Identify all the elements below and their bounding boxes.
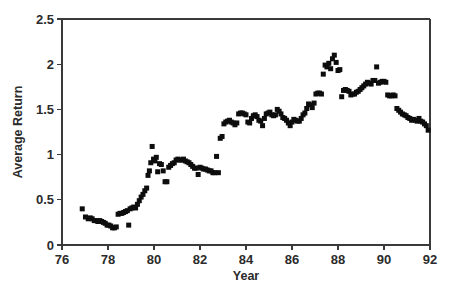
data-point	[214, 154, 219, 159]
data-point	[161, 168, 166, 173]
y-tick-label: 2	[47, 57, 54, 72]
x-tick-label: 82	[193, 252, 207, 267]
x-tick-label: 80	[147, 252, 161, 267]
average-return-scatter-chart: 00.511.522.5 767880828486889092 Year Ave…	[0, 0, 457, 292]
data-point	[126, 223, 131, 228]
data-point	[147, 168, 152, 173]
data-point	[312, 101, 317, 106]
data-point	[146, 173, 151, 178]
data-point	[150, 144, 155, 149]
data-point	[234, 120, 239, 125]
data-point	[80, 206, 85, 211]
data-point	[159, 162, 164, 167]
data-point	[302, 111, 307, 116]
data-point	[247, 120, 252, 125]
data-point	[339, 94, 344, 99]
y-tick-label: 0	[47, 238, 54, 253]
x-tick-label: 92	[423, 252, 437, 267]
data-point	[374, 64, 379, 69]
data-point	[383, 80, 388, 85]
data-point	[424, 123, 429, 128]
data-point	[262, 116, 267, 121]
data-point	[326, 61, 331, 66]
x-tick-label: 88	[331, 252, 345, 267]
y-tick-label: 0.5	[36, 192, 54, 207]
data-point	[114, 224, 119, 229]
data-point	[332, 53, 337, 58]
data-point	[321, 72, 326, 77]
data-point	[310, 105, 315, 110]
x-tick-label: 86	[285, 252, 299, 267]
data-point	[220, 134, 225, 139]
y-axis-title: Average Return	[11, 86, 25, 179]
data-point	[328, 66, 333, 71]
x-tick-label: 76	[55, 252, 69, 267]
data-point	[393, 93, 398, 98]
data-point	[426, 128, 431, 133]
data-point	[244, 112, 249, 117]
data-point	[196, 172, 201, 177]
data-point	[144, 186, 149, 191]
data-point	[154, 155, 159, 160]
y-tick-label: 2.5	[36, 12, 54, 27]
y-tick-label: 1	[47, 147, 54, 162]
x-tick-label: 90	[377, 252, 391, 267]
data-point	[319, 92, 324, 97]
chart-background	[0, 0, 457, 292]
data-point	[216, 170, 221, 175]
x-tick-label: 84	[239, 252, 254, 267]
data-point	[334, 60, 339, 65]
x-tick-label: 78	[101, 252, 115, 267]
data-point	[155, 169, 160, 174]
x-axis-title: Year	[233, 269, 260, 283]
data-point	[164, 179, 169, 184]
data-point	[337, 67, 342, 72]
data-point	[260, 123, 265, 128]
y-tick-label: 1.5	[36, 102, 54, 117]
